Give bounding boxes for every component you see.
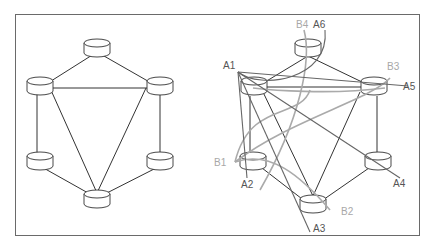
label-a2: A2 [241,179,253,190]
label-b3: B3 [387,61,399,72]
edge [320,168,369,202]
label-a6: A6 [313,19,325,30]
label-a5: A5 [403,81,415,92]
server-node-icon [84,190,110,208]
server-node-icon [84,39,110,57]
label-b2: B2 [341,206,353,217]
label-b4: B4 [296,19,308,30]
server-node-icon [295,39,321,57]
server-node-icon [365,152,391,170]
server-node-icon [27,152,53,170]
diagram-canvas: A1 A2 A3 A4 A5 A6 B1 B2 B3 B4 [0,0,435,248]
server-node-icon [27,77,53,95]
edge [50,88,97,193]
left-nodes [27,39,173,208]
label-a4: A4 [393,178,405,189]
server-node-icon [361,77,387,95]
label-a3: A3 [313,223,325,234]
label-b1: B1 [214,157,226,168]
server-node-icon [147,152,173,170]
server-node-icon [300,195,326,213]
label-a1: A1 [223,60,235,71]
network-diagram [0,0,435,248]
left-topology [37,52,160,198]
server-node-icon [147,77,173,95]
